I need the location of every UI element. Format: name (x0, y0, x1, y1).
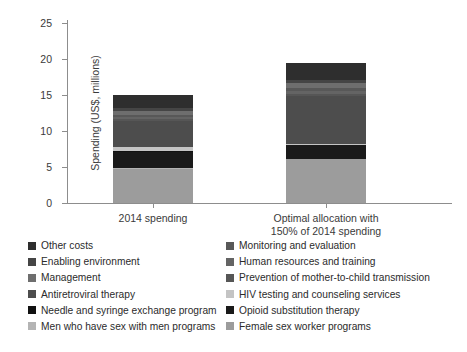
y-axis-title-text: Spending (US$, millions) (89, 55, 101, 171)
legend-item-left-5[interactable]: Needle and syringe exchange program (28, 304, 218, 317)
y-axis-tick-25: 25 (40, 17, 52, 29)
legend-item-label: Prevention of mother-to-child transmissi… (239, 271, 430, 284)
legend-swatch-icon (226, 290, 234, 298)
legend-item-right-3[interactable]: Prevention of mother-to-child transmissi… (226, 271, 460, 284)
legend-swatch-icon (28, 274, 36, 282)
legend-item-label: Other costs (41, 239, 93, 252)
legend-item-right-6[interactable]: Female sex worker programs (226, 320, 460, 333)
legend-item-label: Antiretroviral therapy (41, 288, 135, 301)
legend-swatch-icon (28, 306, 36, 314)
x-tick-mark-2 (326, 203, 327, 208)
legend-swatch-icon (226, 274, 234, 282)
y-axis-tick-20: 20 (40, 53, 52, 65)
legend-swatch-icon (28, 290, 36, 298)
bar-segment[interactable] (286, 63, 366, 79)
legend-item-left-3[interactable]: Management (28, 271, 218, 284)
bar-segment[interactable] (286, 159, 366, 203)
legend-item-label: Management (41, 271, 100, 284)
legend-item-label: Human resources and training (239, 255, 375, 268)
y-axis-tick-10: 10 (40, 125, 52, 137)
legend-item-label: Enabling environment (41, 255, 140, 268)
legend-item-label: HIV testing and counseling services (239, 288, 400, 301)
bar-segment[interactable] (113, 169, 193, 203)
legend-item-label: Monitoring and evaluation (239, 239, 356, 252)
legend-swatch-icon (226, 322, 234, 330)
legend-item-right-5[interactable]: Opioid substitution therapy (226, 304, 460, 317)
bar-2[interactable] (286, 63, 366, 203)
legend-item-left-4[interactable]: Antiretroviral therapy (28, 288, 218, 301)
chart-legend: Other costsMonitoring and evaluationEnab… (28, 239, 460, 333)
legend-swatch-icon (28, 322, 36, 330)
legend-item-right-4[interactable]: HIV testing and counseling services (226, 288, 460, 301)
legend-item-label: Needle and syringe exchange program (41, 304, 217, 317)
legend-item-right-2[interactable]: Human resources and training (226, 255, 460, 268)
legend-swatch-icon (28, 258, 36, 266)
legend-item-label: Opioid substitution therapy (239, 304, 360, 317)
legend-item-label: Men who have sex with men programs (41, 320, 215, 333)
y-axis-line (67, 20, 68, 204)
legend-item-right-1[interactable]: Monitoring and evaluation (226, 239, 460, 252)
legend-item-left-2[interactable]: Enabling environment (28, 255, 218, 268)
y-axis-tick-0: 0 (46, 197, 52, 209)
x-tick-mark-1 (153, 203, 154, 208)
bar-1[interactable] (113, 95, 193, 203)
legend-swatch-icon (28, 242, 36, 250)
legend-item-left-6[interactable]: Men who have sex with men programs (28, 320, 218, 333)
y-axis-tick-5: 5 (46, 161, 52, 173)
x-axis-label-2: Optimal allocation with150% of 2014 spen… (241, 212, 411, 237)
x-axis-label-1: 2014 spending (68, 212, 238, 225)
stacked-bar-chart: Spending (US$, millions) 2520151050 2014… (0, 0, 467, 352)
bar-segment[interactable] (113, 121, 193, 147)
legend-item-left-1[interactable]: Other costs (28, 239, 218, 252)
bar-segment[interactable] (113, 95, 193, 108)
y-axis-tick-15: 15 (40, 89, 52, 101)
legend-item-label: Female sex worker programs (239, 320, 371, 333)
legend-swatch-icon (226, 306, 234, 314)
bar-segment[interactable] (286, 96, 366, 144)
x-axis-line (67, 203, 452, 204)
legend-swatch-icon (226, 258, 234, 266)
bar-segment[interactable] (286, 145, 366, 158)
bar-segment[interactable] (113, 152, 193, 169)
legend-swatch-icon (226, 242, 234, 250)
